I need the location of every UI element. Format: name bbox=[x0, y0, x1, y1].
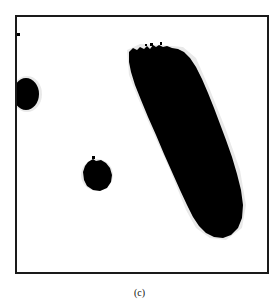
figure: (c) bbox=[0, 0, 279, 306]
tiny-speck bbox=[17, 33, 20, 36]
binary-image bbox=[0, 0, 279, 280]
figure-caption: (c) bbox=[0, 286, 279, 300]
